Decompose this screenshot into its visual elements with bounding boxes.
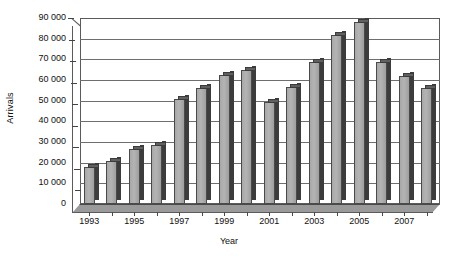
x-axis-tick-label: 1995 xyxy=(124,216,144,226)
plot-baseline xyxy=(72,212,433,213)
y-axis-tick-labels: 90 00080 00070 00060 00050 00040 00030 0… xyxy=(18,0,66,258)
bar xyxy=(331,35,342,204)
bar xyxy=(219,75,230,204)
y-axis-tick-label: 40 000 xyxy=(18,116,66,125)
bar-top xyxy=(380,59,391,63)
bar xyxy=(129,149,140,204)
bar-face xyxy=(421,88,432,204)
bar-face xyxy=(241,70,252,204)
x-axis-tick-labels: 19931995199719992001200320052007 xyxy=(72,216,440,232)
bar-side xyxy=(140,145,144,200)
bar-face xyxy=(399,76,410,204)
plot-area xyxy=(72,18,440,212)
x-axis-tick-label: 2005 xyxy=(349,216,369,226)
bar-face xyxy=(129,149,140,204)
x-axis-tick-mark xyxy=(382,212,383,216)
bar-side xyxy=(432,84,436,200)
bar-face xyxy=(174,99,185,204)
bar-top xyxy=(403,73,414,77)
bar-top xyxy=(268,99,279,103)
bar-top xyxy=(223,72,234,76)
bar xyxy=(151,145,162,204)
bar-side xyxy=(320,58,324,200)
bar-top xyxy=(155,142,166,146)
bar-side xyxy=(342,31,346,200)
bar xyxy=(286,87,297,204)
bar-top xyxy=(425,85,436,89)
bar-top xyxy=(245,67,256,71)
x-axis-tick-mark xyxy=(337,212,338,216)
x-axis-tick-mark xyxy=(292,212,293,216)
x-axis-title: Year xyxy=(0,236,458,246)
bar xyxy=(354,22,365,204)
x-axis-tick-mark xyxy=(202,212,203,216)
bar-face xyxy=(151,145,162,204)
chart-container: Arrivals 90 00080 00070 00060 00050 0004… xyxy=(0,0,458,258)
bar xyxy=(174,99,185,204)
bar-side xyxy=(230,71,234,200)
y-axis-tick-label: 70 000 xyxy=(18,54,66,63)
y-axis-title: Arrivals xyxy=(2,0,18,215)
x-axis-tick-label: 1993 xyxy=(79,216,99,226)
bar xyxy=(421,88,432,204)
x-axis-tick-label: 2007 xyxy=(394,216,414,226)
bar-series xyxy=(72,18,440,213)
bar-top xyxy=(313,59,324,63)
bar-face xyxy=(354,22,365,204)
bar xyxy=(84,167,95,204)
bar-top xyxy=(88,164,99,168)
x-axis-tick-mark xyxy=(112,212,113,216)
bar-face xyxy=(264,102,275,204)
bar xyxy=(196,88,207,204)
y-axis-tick-label: 10 000 xyxy=(18,178,66,187)
bar-side xyxy=(275,98,279,200)
bar-face xyxy=(376,62,387,204)
bar xyxy=(241,70,252,204)
bar-side xyxy=(185,95,189,200)
bar-face xyxy=(309,62,320,204)
y-axis-tick-label: 90 000 xyxy=(18,13,66,22)
bar-side xyxy=(95,163,99,200)
y-axis-tick-label: 80 000 xyxy=(18,34,66,43)
x-axis-tick-label: 2001 xyxy=(259,216,279,226)
bar xyxy=(106,161,117,204)
x-axis-tick-mark xyxy=(157,212,158,216)
bar xyxy=(264,102,275,204)
x-axis-tick-label: 1999 xyxy=(214,216,234,226)
y-axis-tick-label: 0 xyxy=(18,199,66,208)
y-axis-tick-label: 30 000 xyxy=(18,137,66,146)
x-axis-tick-label: 1997 xyxy=(169,216,189,226)
bar xyxy=(309,62,320,204)
x-axis-tick-mark xyxy=(427,212,428,216)
x-axis-tick-mark xyxy=(247,212,248,216)
bar-face xyxy=(196,88,207,204)
x-axis-tick-label: 2003 xyxy=(304,216,324,226)
bar-face xyxy=(84,167,95,204)
bar-top xyxy=(200,85,211,89)
y-axis-tick-label: 60 000 xyxy=(18,75,66,84)
bar xyxy=(399,76,410,204)
bar-side xyxy=(252,66,256,200)
bar-face xyxy=(219,75,230,204)
y-axis-tick-label: 50 000 xyxy=(18,96,66,105)
bar-side xyxy=(117,157,121,200)
bar-side xyxy=(162,141,166,200)
bar-face xyxy=(286,87,297,204)
bar-side xyxy=(410,72,414,200)
bar-top xyxy=(290,84,301,88)
x-axis-title-text: Year xyxy=(220,236,238,246)
bar-top xyxy=(358,19,369,23)
bar-face xyxy=(106,161,117,204)
bar-top xyxy=(110,158,121,162)
bar-top xyxy=(335,32,346,36)
bar-face xyxy=(331,35,342,204)
bar-top xyxy=(178,96,189,100)
y-axis-tick-label: 20 000 xyxy=(18,158,66,167)
bar-side xyxy=(207,84,211,200)
y-axis-title-text: Arrivals xyxy=(5,92,15,124)
bar-side xyxy=(297,83,301,200)
bar xyxy=(376,62,387,204)
bar-side xyxy=(387,58,391,200)
bar-top xyxy=(133,146,144,150)
bar-side xyxy=(365,18,369,200)
